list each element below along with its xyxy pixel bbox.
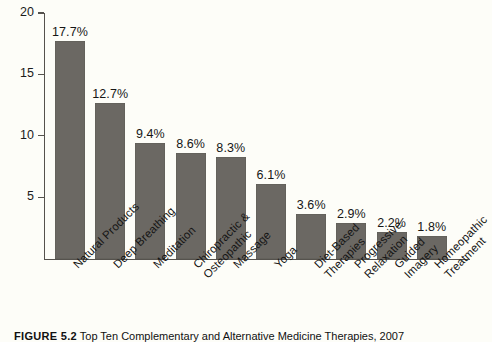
y-axis-tick-label: 5 xyxy=(0,189,34,203)
y-axis-tick xyxy=(38,135,44,136)
bar xyxy=(55,41,85,258)
bar-value-label: 17.7% xyxy=(44,25,96,39)
caption-number: FIGURE 5.2 xyxy=(14,330,77,342)
y-axis-tick-label: 10 xyxy=(0,128,34,142)
bar-value-label: 6.1% xyxy=(245,168,297,182)
figure-caption: FIGURE 5.2 Top Ten Complementary and Alt… xyxy=(14,330,464,342)
y-axis-tick xyxy=(38,197,44,198)
bar-value-label: 8.3% xyxy=(205,141,257,155)
y-axis-line xyxy=(44,13,45,259)
bar-value-label: 12.7% xyxy=(84,87,136,101)
y-axis-tick xyxy=(38,74,44,75)
plot-area: 5101520 17.7%12.7%9.4%8.6%8.3%6.1%3.6%2.… xyxy=(0,0,474,262)
caption-text: Top Ten Complementary and Alternative Me… xyxy=(80,330,404,342)
y-axis-tick-label: 20 xyxy=(0,5,34,19)
y-axis-tick xyxy=(38,12,44,13)
y-axis-tick-label: 15 xyxy=(0,66,34,80)
